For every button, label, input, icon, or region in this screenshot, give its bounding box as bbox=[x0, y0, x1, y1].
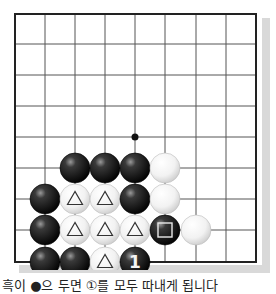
diagram-caption: 흑이 ●으 두면 ①를 모두 따내게 됩니다 bbox=[2, 278, 276, 294]
black-stone bbox=[150, 215, 180, 245]
black-stone bbox=[30, 184, 60, 214]
black-stone bbox=[30, 215, 60, 245]
white-stone bbox=[150, 153, 180, 183]
board-shadow-right bbox=[262, 18, 270, 270]
black-stone bbox=[120, 184, 150, 214]
star-point-icon bbox=[132, 134, 139, 141]
move-number-label: 1 bbox=[129, 252, 141, 272]
white-stone bbox=[90, 215, 120, 245]
white-stone bbox=[181, 215, 211, 245]
white-stone bbox=[120, 215, 150, 245]
black-stone bbox=[120, 153, 150, 183]
black-stone bbox=[60, 153, 90, 183]
star-points bbox=[132, 134, 139, 141]
white-stone bbox=[150, 184, 180, 214]
white-stone bbox=[60, 215, 90, 245]
black-stone bbox=[90, 153, 120, 183]
white-stone bbox=[60, 184, 90, 214]
white-stone bbox=[90, 184, 120, 214]
